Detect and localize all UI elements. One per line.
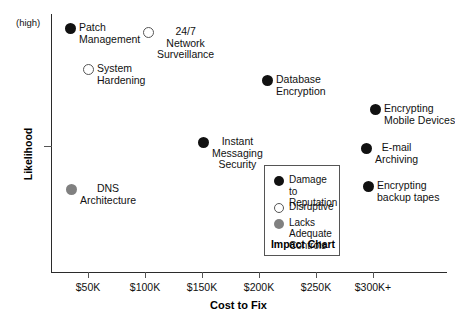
x-axis-tick <box>316 272 317 278</box>
data-point-marker <box>363 181 374 192</box>
data-point-label-line: Hardening <box>97 75 145 87</box>
x-axis-tick-label: $200K <box>244 281 274 293</box>
data-point-marker <box>262 75 273 86</box>
y-axis-high-label: (high) <box>16 17 40 28</box>
x-axis-tick <box>88 272 89 278</box>
legend-item-label-line: Lacks <box>289 217 332 229</box>
data-point-label: InstantMessagingSecurity <box>212 136 263 171</box>
data-point-label-line: DNS <box>80 183 136 195</box>
data-point-label-line: Encrypting <box>377 180 439 192</box>
legend-marker-gray-icon <box>274 219 284 229</box>
x-axis-title: Cost to Fix <box>0 299 455 311</box>
x-axis-tick-label: $250K <box>301 281 331 293</box>
data-point-label: E-mailArchiving <box>375 142 418 165</box>
x-axis-tick-label: $100K <box>130 281 160 293</box>
data-point-label-line: E-mail <box>375 142 418 154</box>
data-point-label-line: Surveillance <box>157 49 214 61</box>
data-point-label-line: System <box>97 63 145 75</box>
data-point-label: DatabaseEncryption <box>276 74 326 97</box>
x-axis-title-text: Cost to Fix <box>210 299 267 311</box>
x-axis-tick <box>202 272 203 278</box>
x-axis-tick <box>145 272 146 278</box>
data-point-label: 24/7NetworkSurveillance <box>157 26 214 61</box>
y-axis-title: Likelihood <box>22 109 34 199</box>
data-point-label-line: Encrypting <box>384 103 455 115</box>
x-axis-tick <box>259 272 260 278</box>
data-point-label-line: Instant <box>212 136 263 148</box>
legend-item-label-line: Damage to <box>289 174 337 197</box>
data-point-label-line: 24/7 <box>157 26 214 38</box>
data-point-label: DNSArchitecture <box>80 183 136 206</box>
legend-marker-filled-icon <box>274 176 284 186</box>
data-point-label-line: backup tapes <box>377 192 439 204</box>
x-axis-tick-label: $150K <box>187 281 217 293</box>
x-axis-tick-label: $50K <box>76 281 101 293</box>
data-point-marker <box>143 27 154 38</box>
x-axis-tick-label: $300K+ <box>355 281 392 293</box>
legend-item-label: Disruptive <box>289 201 333 213</box>
data-point-label-line: Database <box>276 74 326 86</box>
data-point-label-line: Management <box>79 34 140 46</box>
data-point-label: SystemHardening <box>97 63 145 86</box>
x-axis-tick <box>373 272 374 278</box>
data-point-marker <box>65 23 76 34</box>
data-point-label-line: Archiving <box>375 154 418 166</box>
legend-item-label-line: Disruptive <box>289 201 333 213</box>
data-point-marker <box>361 143 372 154</box>
data-point-label-line: Patch <box>79 22 140 34</box>
x-axis-line <box>51 272 447 273</box>
legend-marker-open-icon <box>274 203 284 213</box>
data-point-label: Encryptingbackup tapes <box>377 180 439 203</box>
data-point-marker <box>66 184 77 195</box>
legend-title: Impact Chart <box>265 238 341 250</box>
data-point-label-line: Security <box>212 159 263 171</box>
data-point-label-line: Architecture <box>80 195 136 207</box>
data-point-marker <box>370 104 381 115</box>
data-point-label: EncryptingMobile Devices <box>384 103 455 126</box>
chart-legend: Damage toReputationDisruptiveLacksAdequa… <box>264 165 340 256</box>
y-axis-tick <box>44 146 52 147</box>
data-point-marker <box>198 137 209 148</box>
data-point-label: PatchManagement <box>79 22 140 45</box>
data-point-label-line: Mobile Devices <box>384 115 455 127</box>
data-point-marker <box>83 64 94 75</box>
data-point-label-line: Encryption <box>276 86 326 98</box>
impact-chart: (high) Likelihood $50K$100K$150K$200K$25… <box>0 0 455 333</box>
y-axis-line <box>51 14 52 273</box>
